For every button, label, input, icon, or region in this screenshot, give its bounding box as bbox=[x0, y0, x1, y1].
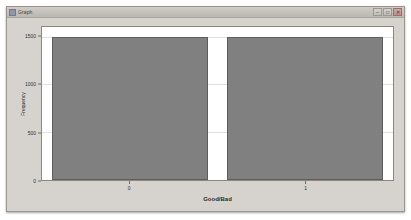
bar[interactable] bbox=[52, 37, 208, 180]
window-title-bar[interactable]: Graph – □ ✕ bbox=[7, 7, 404, 18]
x-axis: Good/Bad 01 bbox=[41, 181, 394, 211]
minimize-button[interactable]: – bbox=[373, 8, 382, 16]
window-title: Graph bbox=[18, 9, 373, 16]
x-tick-mark bbox=[129, 181, 130, 184]
y-axis: Frequency 050010001500 bbox=[7, 26, 41, 181]
window-controls: – □ ✕ bbox=[373, 8, 402, 16]
x-tick-label: 0 bbox=[128, 186, 131, 191]
graph-window[interactable]: Graph – □ ✕ Frequency 050010001500 Good/… bbox=[6, 6, 405, 212]
x-tick-mark bbox=[305, 181, 306, 184]
close-button[interactable]: ✕ bbox=[393, 8, 402, 16]
maximize-button[interactable]: □ bbox=[383, 8, 392, 16]
y-tick-label: 500 bbox=[28, 130, 36, 135]
bar[interactable] bbox=[227, 37, 383, 180]
plot-inner bbox=[42, 27, 393, 180]
y-tick-label: 1000 bbox=[25, 82, 36, 87]
chart-icon bbox=[9, 9, 16, 16]
chart-panel: Frequency 050010001500 Good/Bad 01 bbox=[7, 18, 404, 211]
y-tick-label: 1500 bbox=[25, 33, 36, 38]
x-axis-title: Good/Bad bbox=[41, 196, 394, 203]
x-tick-label: 1 bbox=[304, 186, 307, 191]
y-tick-label: 0 bbox=[33, 179, 36, 184]
plot-area[interactable] bbox=[41, 26, 394, 181]
